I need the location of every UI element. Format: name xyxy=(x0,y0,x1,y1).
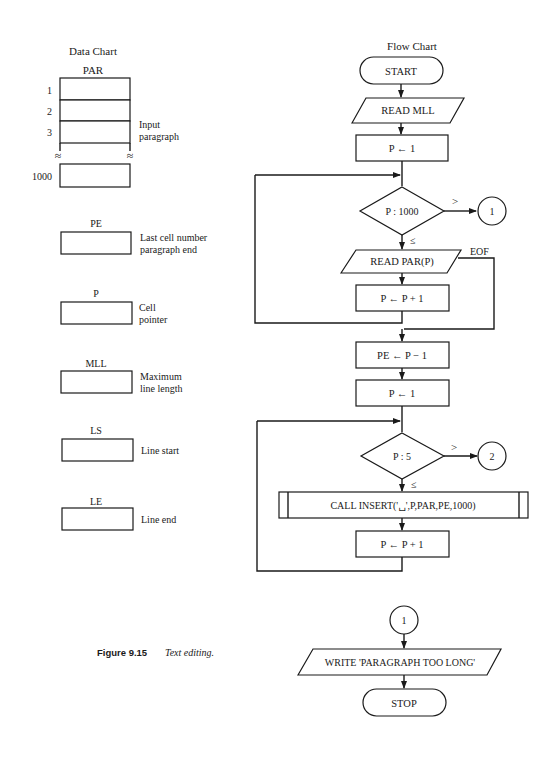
data-chart: Data Chart PAR ≈ ≈ 1 2 3 1000 Input para… xyxy=(32,45,208,530)
variable-name: PE xyxy=(90,218,102,229)
reset-p-label: P ← 1 xyxy=(389,388,415,399)
variable-box xyxy=(61,371,132,393)
variable-name: MLL xyxy=(85,358,106,369)
variable-box xyxy=(62,439,133,461)
variable-ls: LS Line start xyxy=(62,425,179,461)
variable-name: LE xyxy=(90,496,102,507)
flow-chart: Flow Chart START READ MLL P ← 1 P : 1000… xyxy=(255,40,528,716)
figure-number: Figure 9.15 xyxy=(97,647,148,658)
increment-p-2-label: P ← P + 1 xyxy=(380,539,423,550)
figure-caption: Figure 9.15 Text editing. xyxy=(97,647,214,658)
row-label-1000: 1000 xyxy=(32,171,52,182)
variable-desc-line2: paragraph end xyxy=(140,244,197,255)
decision-1-gt-label: > xyxy=(452,195,458,207)
variable-p: P Cell pointer xyxy=(61,288,168,325)
variable-desc-line1: Cell xyxy=(139,302,156,313)
variable-le: LE Line end xyxy=(62,496,176,530)
break-symbol-left: ≈ xyxy=(55,149,62,163)
par-array-name: PAR xyxy=(83,64,104,76)
read-mll-label: READ MLL xyxy=(381,105,434,116)
variable-desc-line1: Line start xyxy=(141,445,179,456)
eof-label: EOF xyxy=(470,246,489,257)
write-message-label: WRITE 'PARAGRAPH TOO LONG' xyxy=(325,657,476,668)
variable-desc-line1: Last cell number xyxy=(140,232,208,243)
decision-2-gt-label: > xyxy=(451,441,457,453)
par-desc-line1: Input xyxy=(139,119,160,130)
set-pe-label: PE ← P − 1 xyxy=(377,350,427,361)
variable-pe: PE Last cell number paragraph end xyxy=(61,218,208,255)
connector-1-in-label: 1 xyxy=(402,615,407,626)
connector-1-label: 1 xyxy=(490,206,495,217)
variable-box xyxy=(62,508,133,530)
data-chart-title: Data Chart xyxy=(69,45,117,57)
row-label-3: 3 xyxy=(47,127,52,138)
decision-2-le-label: ≤ xyxy=(411,479,417,490)
row-label-1: 1 xyxy=(47,85,52,96)
connector-2-label: 2 xyxy=(490,451,495,462)
par-cell-3 xyxy=(60,121,130,143)
par-cell-1000 xyxy=(60,164,130,187)
stop-label: STOP xyxy=(391,698,417,709)
variable-desc-line2: line length xyxy=(140,383,183,394)
call-insert-label: CALL INSERT('␣',P,PAR,PE,1000) xyxy=(330,500,475,512)
decision-p-1000-label: P : 1000 xyxy=(386,206,419,217)
par-cell-2 xyxy=(60,100,130,121)
init-p-label: P ← 1 xyxy=(389,143,415,154)
par-cell-1 xyxy=(60,78,130,100)
variable-desc-line2: pointer xyxy=(139,314,168,325)
start-label: START xyxy=(385,66,417,77)
variable-name: P xyxy=(93,288,99,299)
variable-mll: MLL Maximum line length xyxy=(61,358,183,394)
text-editing-figure: Data Chart PAR ≈ ≈ 1 2 3 1000 Input para… xyxy=(0,0,554,758)
variable-box xyxy=(61,232,131,254)
row-label-2: 2 xyxy=(47,106,52,117)
read-par-label: READ PAR(P) xyxy=(370,256,434,268)
par-desc-line2: paragraph xyxy=(139,131,179,142)
break-symbol-right: ≈ xyxy=(127,149,134,163)
decision-p-5-label: P : 5 xyxy=(393,451,411,462)
decision-1-le-label: ≤ xyxy=(410,235,416,246)
figure-title: Text editing. xyxy=(165,647,214,658)
variable-desc-line1: Maximum xyxy=(140,371,182,382)
variable-box xyxy=(61,302,132,324)
variable-name: LS xyxy=(90,425,102,436)
increment-p-label: P ← P + 1 xyxy=(380,293,423,304)
variable-desc-line1: Line end xyxy=(141,514,176,525)
flow-chart-title: Flow Chart xyxy=(387,40,437,52)
par-array: PAR ≈ ≈ 1 2 3 1000 Input paragraph xyxy=(32,64,179,187)
